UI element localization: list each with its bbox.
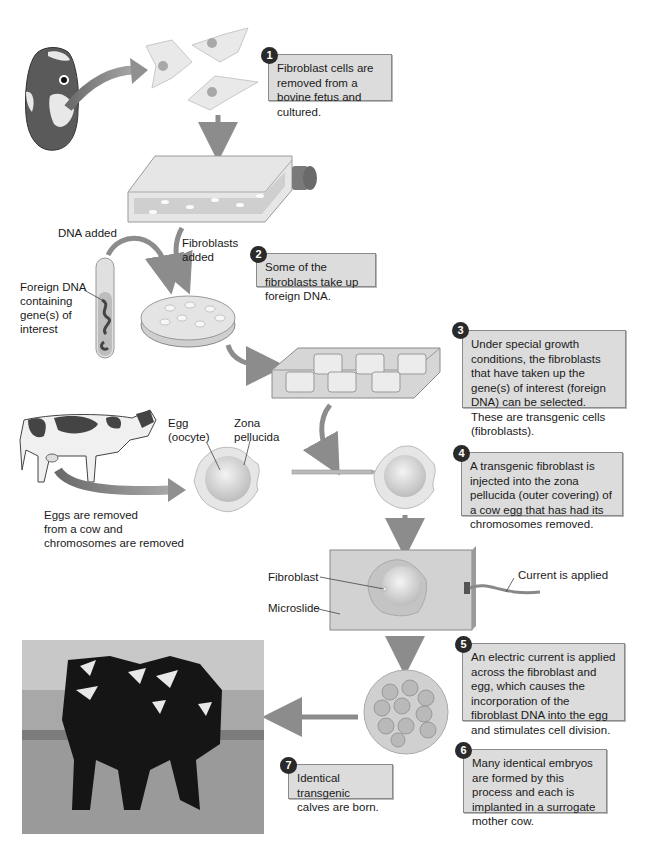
label-zona-1: Zona	[234, 416, 260, 430]
step-3-box: Under special growth conditions, the fib…	[462, 330, 626, 408]
label-foreign-dna-1: Foreign DNA	[20, 280, 86, 294]
label-eggs-removed-3: chromosomes are removed	[44, 536, 184, 550]
label-egg-2: (oocyte)	[168, 430, 210, 444]
step-6-badge: 6	[455, 742, 472, 759]
step-4-text: A transgenic fibroblast is injected into…	[470, 460, 612, 530]
embryos-dish-icon	[364, 670, 448, 754]
step-7-box: Identical transgenic calves are born.	[288, 764, 393, 799]
petri-dish-icon	[141, 296, 235, 347]
test-tube-icon	[96, 258, 114, 358]
label-dna-added: DNA added	[58, 226, 117, 240]
step-3-badge: 3	[452, 322, 469, 339]
label-fibroblasts-added-2: added	[182, 250, 214, 264]
calves-photo	[22, 640, 264, 834]
egg-oocyte-icon	[194, 447, 259, 511]
step-1-box: Fibroblast cells are removed from a bovi…	[268, 54, 392, 101]
label-eggs-removed-1: Eggs are removed	[44, 508, 138, 522]
step-4-box: A transgenic fibroblast is injected into…	[461, 452, 623, 516]
label-foreign-dna-4: interest	[20, 322, 58, 336]
step-5-badge: 5	[455, 636, 472, 653]
step-4-badge: 4	[453, 445, 470, 462]
cow-icon	[20, 410, 156, 482]
label-eggs-removed-2: from a cow and	[44, 522, 123, 536]
arrow-icon	[130, 58, 148, 84]
label-egg-1: Egg	[168, 416, 188, 430]
label-fibroblasts-added-1: Fibroblasts	[182, 236, 238, 250]
label-foreign-dna-2: containing	[20, 294, 72, 308]
label-fibroblast: Fibroblast	[268, 570, 319, 584]
step-3-text: Under special growth conditions, the fib…	[471, 338, 606, 437]
step-5-text: An electric current is applied across th…	[471, 651, 615, 736]
label-current-applied: Current is applied	[518, 568, 608, 582]
step-7-text: Identical transgenic calves are born.	[297, 772, 379, 813]
label-foreign-dna-3: gene(s) of	[20, 308, 72, 322]
culture-flask-icon	[128, 156, 317, 222]
step-7-badge: 7	[280, 757, 297, 774]
label-zona-2: pellucida	[234, 430, 279, 444]
step-1-badge: 1	[261, 47, 278, 64]
egg-recipient-icon	[374, 446, 435, 509]
step-2-box: Some of the fibroblasts take up foreign …	[256, 253, 376, 287]
step-2-badge: 2	[250, 246, 267, 263]
well-plate-icon	[272, 348, 440, 398]
label-microslide: Microslide	[268, 601, 320, 615]
step-6-box: Many identical embryos are formed by thi…	[463, 749, 607, 813]
step-5-box: An electric current is applied across th…	[462, 643, 625, 721]
injection-needle-icon	[292, 470, 384, 474]
fibroblast-cells-icon	[146, 28, 258, 110]
